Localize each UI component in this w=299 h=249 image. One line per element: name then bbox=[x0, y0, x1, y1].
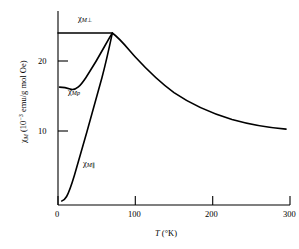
x-tick-label-200: 200 bbox=[205, 209, 218, 219]
y-axis-title: χM (10−3 emu/g mol Oe) bbox=[17, 27, 28, 177]
y-tick-label-20: 20 bbox=[38, 56, 47, 66]
chart-canvas bbox=[0, 0, 299, 249]
y-axis-title-sub: M bbox=[22, 134, 29, 139]
curve-chi-m-parallel bbox=[62, 33, 113, 201]
annotation-chi-m-powder: χMp bbox=[68, 87, 80, 97]
annot-powder-sub-p: p bbox=[77, 89, 80, 96]
x-tick-label-100: 100 bbox=[128, 209, 141, 219]
annotation-chi-m-perpendicular: χM⊥ bbox=[78, 14, 92, 24]
y-axis-title-open: (10 bbox=[18, 121, 28, 134]
y-axis-title-exponent: −3 bbox=[17, 114, 24, 121]
perpendicular-icon: ⊥ bbox=[87, 16, 92, 23]
x-axis-title-unit: (°K) bbox=[160, 228, 177, 238]
y-axis-title-chi: χ bbox=[18, 139, 28, 143]
annotation-chi-m-parallel: χM∥ bbox=[83, 159, 95, 169]
y-axis-title-close: emu/g mol Oe) bbox=[18, 60, 28, 114]
figure-container: 20 10 0 100 200 300 T (°K) χM (10−3 emu/… bbox=[0, 0, 299, 249]
parallel-icon: ∥ bbox=[92, 161, 95, 168]
x-axis-title: T (°K) bbox=[155, 229, 177, 238]
y-tick-label-10: 10 bbox=[38, 126, 47, 136]
x-tick-label-0: 0 bbox=[55, 209, 59, 219]
x-tick-label-300: 300 bbox=[283, 209, 296, 219]
